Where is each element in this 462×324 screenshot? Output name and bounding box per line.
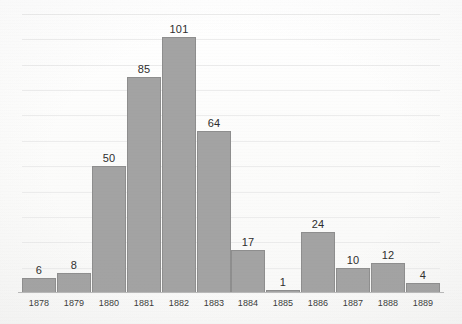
bar-value-label: 64	[197, 117, 231, 129]
x-tick-label-1879: 1879	[57, 297, 91, 309]
bar-value-label: 17	[231, 236, 265, 248]
x-tick-label-1880: 1880	[92, 297, 126, 309]
x-tick-label-1889: 1889	[406, 297, 440, 309]
bar-value-label: 4	[406, 269, 440, 281]
x-tick-label-1886: 1886	[301, 297, 335, 309]
bar-value-label: 1	[266, 276, 300, 288]
bar-group[interactable]: 8	[57, 257, 91, 293]
x-tick-label-1882: 1882	[162, 297, 196, 309]
bars-layer: 685085101641712410124	[22, 14, 440, 293]
bar-value-label: 50	[92, 152, 126, 164]
bar-value-label: 85	[127, 63, 161, 75]
x-tick-label-1888: 1888	[371, 297, 405, 309]
bar-group[interactable]: 101	[162, 21, 196, 293]
bar-value-label: 24	[301, 218, 335, 230]
bar[interactable]	[92, 166, 126, 293]
x-tick-label-1883: 1883	[197, 297, 231, 309]
bar[interactable]	[22, 278, 56, 293]
bar-value-label: 6	[22, 264, 56, 276]
bar[interactable]	[197, 131, 231, 293]
bar-group[interactable]: 50	[92, 150, 126, 293]
bar-group[interactable]: 1	[266, 274, 300, 293]
bar[interactable]	[371, 263, 405, 293]
x-tick-label-1881: 1881	[127, 297, 161, 309]
bar-value-label: 12	[371, 249, 405, 261]
bar[interactable]	[57, 273, 91, 293]
bar-group[interactable]: 17	[231, 234, 265, 293]
bar-group[interactable]: 10	[336, 252, 370, 293]
bar[interactable]	[162, 37, 196, 293]
bar-group[interactable]: 64	[197, 115, 231, 293]
bar-chart: 685085101641712410124 187818791880188118…	[0, 0, 462, 324]
x-axis-line	[18, 292, 444, 293]
x-tick-label-1885: 1885	[266, 297, 300, 309]
bar-group[interactable]: 4	[406, 267, 440, 293]
bar[interactable]	[301, 232, 335, 293]
bar-group[interactable]: 85	[127, 61, 161, 293]
bar-group[interactable]: 12	[371, 247, 405, 293]
bar-group[interactable]: 24	[301, 216, 335, 293]
bar[interactable]	[336, 268, 370, 293]
bar[interactable]	[127, 77, 161, 293]
x-tick-label-1878: 1878	[22, 297, 56, 309]
bar[interactable]	[231, 250, 265, 293]
bar-group[interactable]: 6	[22, 262, 56, 293]
bar-value-label: 8	[57, 259, 91, 271]
x-axis-tick-labels: 1878187918801881188218831884188518861887…	[22, 297, 440, 313]
x-tick-label-1887: 1887	[336, 297, 370, 309]
x-tick-label-1884: 1884	[231, 297, 265, 309]
bar-value-label: 101	[162, 23, 196, 35]
bar-value-label: 10	[336, 254, 370, 266]
